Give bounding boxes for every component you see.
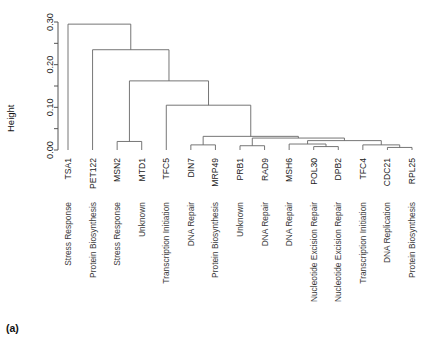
y-axis-title: Height: [0, 108, 23, 168]
leaf-label: DPB2: [333, 158, 343, 181]
dendrogram-branches: [68, 24, 412, 150]
dendrogram-link: [252, 138, 344, 146]
dendrogram-link: [129, 81, 208, 142]
leaf-label: MRP49: [210, 158, 220, 187]
leaf-function-label: DNA Replication: [382, 202, 392, 263]
function-labels: Stress ResponseProtein BiosynthesisStres…: [63, 202, 417, 302]
leaf-function-label: Unknown: [235, 202, 245, 237]
dendrogram-link: [387, 147, 412, 150]
leaf-function-label: DNA Repair: [284, 202, 294, 246]
leaf-label: MSH6: [284, 158, 294, 182]
dendrogram-link: [93, 50, 169, 150]
leaf-function-label: Transcription Initiation: [358, 202, 368, 284]
leaf-function-label: Nucleotide Excision Repair: [309, 202, 319, 302]
leaf-function-label: Protein Biosynthesis: [407, 202, 417, 278]
y-axis-tick-label: 0.10: [45, 98, 55, 116]
y-axis-tick-label: 0.20: [45, 56, 55, 74]
figure-caption: (a): [6, 322, 19, 334]
y-axis-tick-label: 0.30: [45, 13, 55, 31]
leaf-function-label: Unknown: [137, 202, 147, 237]
leaf-label: PRB1: [235, 158, 245, 181]
dendrogram-plot: 0.000.100.200.30TSA1PET122MSN2MTD1TFC5DI…: [0, 0, 429, 325]
leaf-function-label: Transcription Initiation: [161, 202, 171, 284]
dendrogram-link: [191, 145, 216, 150]
dendrogram-link: [166, 105, 250, 150]
leaf-label: TFC5: [161, 158, 171, 180]
y-axis-tick-label: 0.00: [45, 141, 55, 159]
leaf-function-label: Nucleotide Excision Repair: [333, 202, 343, 302]
leaf-function-label: Protein Biosynthesis: [210, 202, 220, 278]
leaf-label: MSN2: [112, 158, 122, 182]
leaf-function-label: DNA Repair: [260, 202, 270, 246]
leaf-label: DIN7: [186, 158, 196, 178]
leaf-label: POL30: [309, 158, 319, 185]
leaf-function-label: Stress Response: [63, 202, 73, 266]
dendrogram-link: [240, 146, 265, 150]
dendrogram-link: [117, 141, 142, 150]
leaf-labels: TSA1PET122MSN2MTD1TFC5DIN7MRP49PRB1RAD9M…: [63, 158, 417, 189]
leaf-label: RAD9: [260, 158, 270, 181]
leaf-label: CDC21: [382, 158, 392, 186]
leaf-function-label: Stress Response: [112, 202, 122, 266]
leaf-function-label: DNA Repair: [186, 202, 196, 246]
dendrogram-figure: Height 0.000.100.200.30TSA1PET122MSN2MTD…: [0, 0, 429, 349]
dendrogram-link: [314, 147, 339, 150]
leaf-function-label: Protein Biosynthesis: [88, 202, 98, 278]
leaf-label: TFC4: [358, 158, 368, 180]
leaf-label: TSA1: [63, 158, 73, 180]
dendrogram-link: [68, 24, 131, 150]
leaf-label: MTD1: [137, 158, 147, 182]
leaf-label: PET122: [88, 158, 98, 189]
leaf-label: RPL25: [407, 158, 417, 184]
